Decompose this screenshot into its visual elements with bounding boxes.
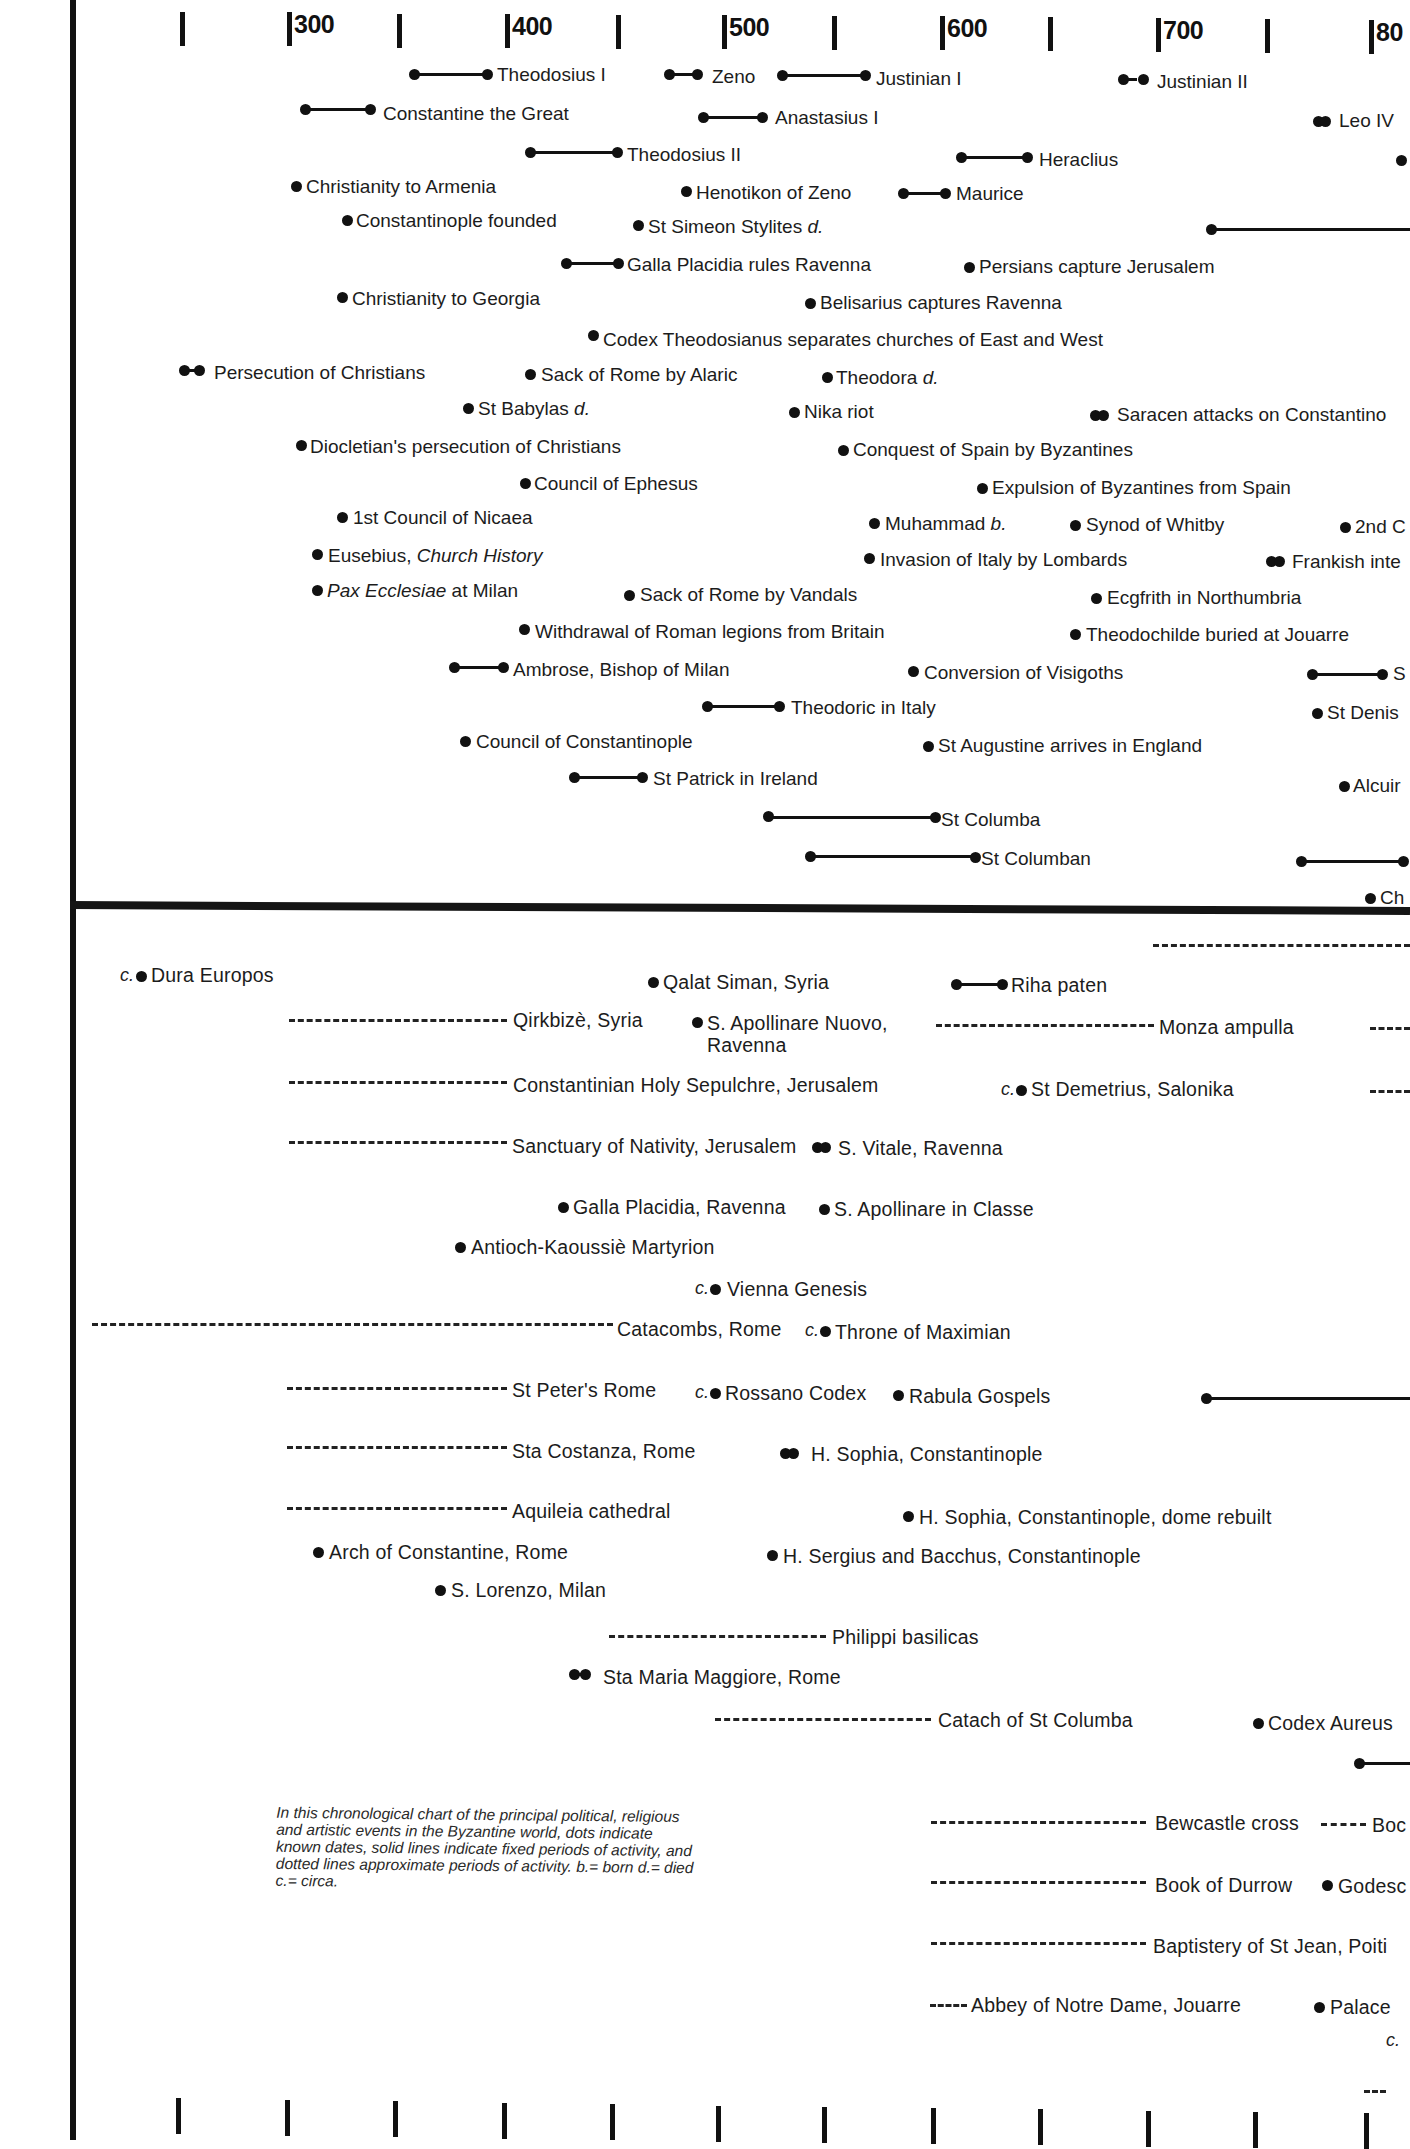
event-dot: [893, 1390, 904, 1401]
approx-dashed-line: [930, 2004, 967, 2007]
range-end-dot: [482, 69, 493, 80]
event-muhammad-b: Muhammad b.: [885, 513, 1006, 535]
event-dot: [291, 181, 302, 192]
art-book-truncated: Boc: [1372, 1814, 1406, 1836]
event-dot: [903, 1511, 914, 1522]
event-frankish-intervention: Frankish inte: [1292, 551, 1401, 573]
tick-800: [1369, 20, 1374, 54]
event-dot: [908, 666, 919, 677]
event-dot: [519, 624, 530, 635]
event-dot: [1070, 520, 1081, 531]
event-dot: [964, 262, 975, 273]
event-constantine-the-great: Constantine the Great: [383, 103, 569, 125]
event-theodoric-in-italy: Theodoric in Italy: [791, 697, 936, 719]
event-dot: [342, 215, 353, 226]
range-bar: [956, 983, 1001, 986]
range-end-dot: [940, 188, 951, 199]
event-synod-of-whitby: Synod of Whitby: [1086, 514, 1224, 536]
tick-650: [1048, 17, 1053, 51]
circa-marker: c.: [120, 965, 134, 986]
approx-dashed-line: [931, 1942, 1146, 1945]
art-philippi-basilicas: Philippi basilicas: [832, 1626, 979, 1648]
approx-dashed-line: [92, 1323, 613, 1326]
tick-750: [1265, 19, 1270, 53]
event-dot: [692, 1017, 703, 1028]
event-dot: [838, 445, 849, 456]
art-st-demetrius: St Demetrius, Salonika: [1031, 1078, 1234, 1100]
range-end-dot: [997, 979, 1008, 990]
event-st-denis: St Denis: [1327, 702, 1399, 724]
circa-marker: c.: [1386, 2030, 1400, 2051]
approx-dashed-line: [1364, 2090, 1386, 2093]
event-dot: [977, 483, 988, 494]
range-bar: [1123, 78, 1137, 81]
tick-label-600: 600: [947, 14, 987, 43]
circa-marker: c.: [695, 1278, 709, 1299]
art-h-sergius-and-bacchus: H. Sergius and Bacchus, Constantinople: [783, 1545, 1141, 1567]
event-christianity-to-georgia: Christianity to Georgia: [352, 288, 540, 310]
event-2nd-council-of-nicaea: 2nd C: [1355, 516, 1406, 538]
range-bar: [961, 156, 1026, 159]
range-bar: [414, 73, 487, 76]
range-end-dot: [1377, 669, 1388, 680]
event-justinian-ii: Justinian II: [1157, 71, 1248, 93]
tick-label-800: 80: [1376, 18, 1403, 47]
event-st-augustine-arrives: St Augustine arrives in England: [938, 735, 1202, 757]
art-catacombs-rome: Catacombs, Rome: [617, 1318, 781, 1340]
tick-label-400: 400: [512, 12, 552, 41]
range-bar: [1312, 673, 1380, 676]
event-dot: [1340, 522, 1351, 533]
art-s-vitale: S. Vitale, Ravenna: [838, 1137, 1003, 1159]
event-persecution-of-christians: Persecution of Christians: [214, 362, 425, 384]
tick-600: [940, 16, 945, 50]
art-book-of-durrow: Book of Durrow: [1155, 1874, 1292, 1896]
art-apollinare-in-classe: S. Apollinare in Classe: [834, 1198, 1034, 1220]
art-abbey-notre-dame-jouarre: Abbey of Notre Dame, Jouarre: [971, 1994, 1241, 2016]
event-belisarius-captures-ravenna: Belisarius captures Ravenna: [820, 292, 1062, 314]
approx-dashed-line: [1370, 1027, 1410, 1030]
art-codex-aureus: Codex Aureus: [1268, 1712, 1393, 1734]
event-dot: [1322, 1880, 1333, 1891]
art-qalat-siman: Qalat Siman, Syria: [663, 971, 829, 993]
art-godescalc-truncated: Godesc: [1338, 1875, 1406, 1897]
event-st-columba: St Columba: [941, 809, 1040, 831]
range-bar: [810, 855, 974, 858]
approx-dashed-line: [289, 1019, 507, 1022]
event-leo-iv: Leo IV: [1339, 110, 1394, 132]
event-dot: [520, 478, 531, 489]
bottom-tick: [285, 2100, 290, 2136]
event-dot: [1070, 629, 1081, 640]
range-end-dot: [498, 662, 509, 673]
range-bar: [1359, 1762, 1410, 1765]
event-dot: [460, 736, 471, 747]
event-dot: [648, 977, 659, 988]
approx-dashed-line: [931, 1821, 1146, 1824]
range-bar: [669, 73, 694, 76]
event-dot: [869, 518, 880, 529]
event-dot: [1365, 893, 1376, 904]
tick-350: [397, 14, 402, 48]
tick-400: [505, 14, 510, 48]
tick-700: [1156, 18, 1161, 52]
range-bar: [1301, 860, 1401, 863]
event-heraclius: Heraclius: [1039, 149, 1118, 171]
range-end-dot: [757, 112, 768, 123]
range-bar: [707, 705, 779, 708]
event-dot: [1091, 593, 1102, 604]
event-dot: [864, 553, 875, 564]
art-galla-placidia: Galla Placidia, Ravenna: [573, 1196, 786, 1218]
art-monza-ampulla: Monza ampulla: [1159, 1016, 1294, 1038]
event-dot: [710, 1388, 721, 1399]
range-bar: [454, 666, 502, 669]
range-bar: [305, 108, 367, 111]
event-dot: [337, 292, 348, 303]
art-palace-truncated: Palace: [1330, 1996, 1391, 2018]
event-dot: [435, 1585, 446, 1596]
approx-dashed-line: [936, 1024, 1154, 1027]
art-st-peters-rome: St Peter's Rome: [512, 1379, 656, 1401]
event-dot: [312, 549, 323, 560]
event-st-columban: St Columban: [981, 848, 1091, 870]
event-dot: [789, 407, 800, 418]
circa-marker: c.: [805, 1320, 819, 1341]
approx-dashed-line: [609, 1635, 826, 1638]
